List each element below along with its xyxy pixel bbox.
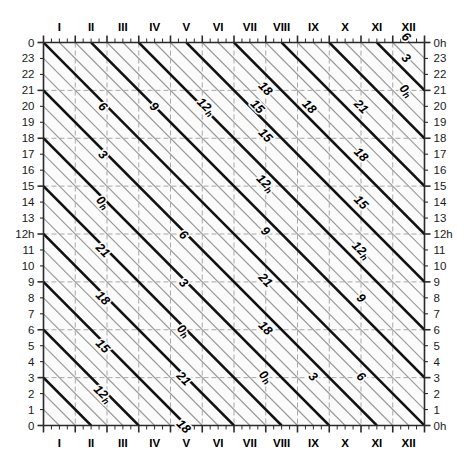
month-label-bottom: V xyxy=(183,437,191,449)
month-label-top: I xyxy=(58,21,61,33)
month-label-bottom: VIII xyxy=(273,437,290,449)
hour-label-left: 18 xyxy=(22,132,35,144)
hour-label-right: 4 xyxy=(434,356,441,368)
hour-label-right: 2 xyxy=(434,388,440,400)
month-label-bottom: I xyxy=(58,437,61,449)
hour-label-left: 7 xyxy=(28,308,34,320)
month-label-top: X xyxy=(341,21,349,33)
month-label-top: XI xyxy=(371,21,382,33)
month-label-top: VIII xyxy=(273,21,290,33)
chart-canvas: 0232221201918171615141312h11109876543210… xyxy=(0,0,467,467)
hour-label-left: 0 xyxy=(28,37,34,49)
hour-label-left: 0 xyxy=(28,420,34,432)
hour-label-left: 23 xyxy=(22,52,35,64)
hour-label-left: 5 xyxy=(28,340,34,352)
hour-label-right: 17 xyxy=(434,148,447,160)
month-label-bottom: X xyxy=(341,437,349,449)
hour-label-right: 23 xyxy=(434,52,447,64)
hour-label-left: 17 xyxy=(22,148,35,160)
hour-label-right: 14 xyxy=(434,196,447,208)
hour-label-right: 0h xyxy=(434,37,447,49)
hour-label-right: 3 xyxy=(434,372,440,384)
hour-label-left: 9 xyxy=(28,276,34,288)
hour-label-right: 11 xyxy=(434,244,446,256)
hour-label-right: 1 xyxy=(434,404,440,416)
hour-label-left: 10 xyxy=(22,260,35,272)
hour-label-right: 19 xyxy=(434,116,447,128)
hour-label-left: 22 xyxy=(22,68,35,80)
hour-label-left: 19 xyxy=(22,116,35,128)
hour-label-right: 22 xyxy=(434,68,447,80)
month-label-bottom: XI xyxy=(371,437,382,449)
hour-label-right: 7 xyxy=(434,308,440,320)
month-label-top: IX xyxy=(308,21,319,33)
hour-label-right: 6 xyxy=(434,324,440,336)
hour-label-left: 16 xyxy=(22,164,35,176)
month-label-bottom: IX xyxy=(308,437,319,449)
hour-label-right: 18 xyxy=(434,132,447,144)
month-label-bottom: III xyxy=(118,437,128,449)
month-label-bottom: II xyxy=(88,437,94,449)
hour-label-left: 13 xyxy=(22,212,35,224)
hour-label-right: 16 xyxy=(434,164,447,176)
month-label-bottom: XII xyxy=(402,437,416,449)
hour-label-right: 12h xyxy=(434,228,453,240)
month-label-top: III xyxy=(118,21,128,33)
hour-label-left: 11 xyxy=(23,244,35,256)
month-label-top: VII xyxy=(243,21,257,33)
hour-label-left: 2 xyxy=(28,388,34,400)
hour-label-left: 1 xyxy=(28,404,34,416)
hour-label-left: 4 xyxy=(28,356,35,368)
hour-label-right: 21 xyxy=(434,84,447,96)
hour-label-right: 5 xyxy=(434,340,440,352)
hour-label-right: 10 xyxy=(434,260,447,272)
hour-label-left: 20 xyxy=(22,100,35,112)
nomogram-chart: 0232221201918171615141312h11109876543210… xyxy=(0,0,467,467)
hour-label-left: 21 xyxy=(22,84,35,96)
month-label-top: IV xyxy=(149,21,160,33)
month-label-top: VI xyxy=(213,21,224,33)
hour-label-left: 3 xyxy=(28,372,34,384)
hour-label-left: 14 xyxy=(22,196,35,208)
hour-label-left: 15 xyxy=(22,180,35,192)
hour-label-right: 20 xyxy=(434,100,447,112)
month-label-bottom: IV xyxy=(149,437,160,449)
hour-label-right: 0h xyxy=(434,420,447,432)
hour-label-left: 12h xyxy=(15,228,34,240)
month-label-top: II xyxy=(88,21,94,33)
month-label-bottom: VI xyxy=(213,437,224,449)
hour-label-right: 15 xyxy=(434,180,447,192)
month-label-bottom: VII xyxy=(243,437,257,449)
hour-label-left: 8 xyxy=(28,292,34,304)
hour-label-left: 6 xyxy=(28,324,34,336)
month-label-top: V xyxy=(183,21,191,33)
hour-label-right: 9 xyxy=(434,276,440,288)
hour-label-right: 13 xyxy=(434,212,447,224)
hour-label-right: 8 xyxy=(434,292,440,304)
